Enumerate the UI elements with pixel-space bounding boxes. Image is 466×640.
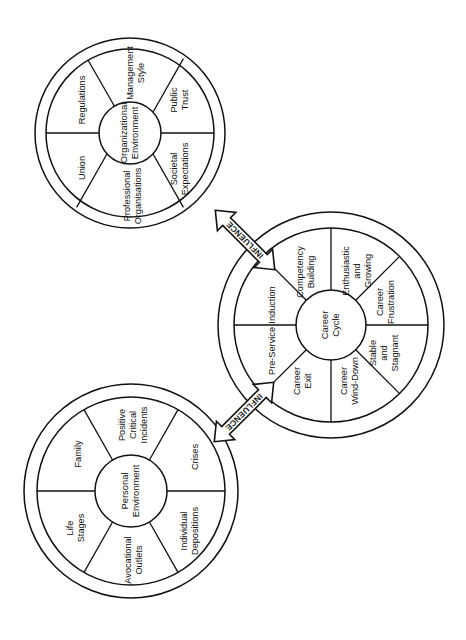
label-line: Exit [303,373,313,389]
divider-120 [88,60,115,106]
label-line: Life [65,521,75,536]
label-line: Frustration [386,280,396,324]
connector-influence-top: INFLUENCE [206,201,284,279]
segment-label-regulations: Regulations [77,75,87,124]
label-line: Incidents [139,406,149,443]
label-line: Career [339,367,349,395]
connector-label: INFLUENCE [225,219,266,260]
wheel-personal-environment: Personal Environment Crises Positive Cri… [24,384,238,598]
label-line: Trust [180,89,190,110]
segment-label-pre-service: Pre-Service [267,327,277,375]
divider-240 [84,521,113,572]
core-label-line-2: Environment [129,106,140,159]
label-line: Management [125,46,135,100]
wheel-organizational-environment: Organizational Environment Public Trust … [35,38,225,228]
core-label-line-1: Career [319,311,330,340]
label-line: Regulations [77,75,87,124]
divider-120 [84,410,113,461]
label-line: Induction [267,286,277,323]
connector-influence-bottom: INFLUENCE [205,373,283,451]
label-line: and [352,263,362,278]
core-label: Career Cycle [319,311,341,340]
segment-label-enthusiastic-and-growing: Enthusiastic and Growing [341,246,373,296]
segment-label-career-exit: Career Exit [292,367,313,395]
label-line: Competency [295,246,305,298]
label-line: Depositions [190,507,200,555]
label-line: Career [292,367,302,395]
segment-label-positive-critical-incidents: Positive Critical Incidents [117,406,149,443]
three-wheel-diagram: Organizational Environment Public Trust … [0,0,466,640]
label-line: Style [136,63,146,83]
label-line: Organisations [133,167,143,224]
label-line: Union [77,156,87,180]
core-label-line-2: Cycle [330,313,341,336]
label-line: Public [169,87,179,112]
segment-label-career-wind-down: Career Wind-Down [339,357,360,404]
label-line: Stagnant [390,334,400,371]
segment-label-crises: Crises [190,444,200,470]
label-line: Crises [190,444,200,470]
divider-60 [149,410,178,461]
core-label: Organizational Environment [118,103,140,163]
label-line: Individual [179,512,189,551]
label-line: Wind-Down [350,357,360,404]
label-line: Outlets [134,545,144,575]
core-label-line-1: Personal [119,472,130,509]
diagram-canvas: Organizational Environment Public Trust … [0,0,466,640]
label-line: Societal [169,153,179,186]
divider-300 [149,521,178,572]
core-label-line-2: Environment [130,464,141,517]
segment-label-competency-building: Competency Building [295,246,316,298]
segment-label-management-style: Management Style [125,46,146,100]
label-line: Enthusiastic [341,246,351,296]
core-label-line-1: Organizational [118,103,129,163]
segment-label-public-trust: Public Trust [169,87,190,112]
label-line: Professional [122,171,132,222]
label-line: Family [73,440,83,467]
segment-label-stable-and-stagnant: Stable and Stagnant [368,334,400,371]
label-line: Stages [76,513,86,542]
segment-label-individual-depositions: Individual Depositions [179,507,200,555]
segment-label-life-stages: Life Stages [65,513,86,542]
label-line: Expectations [180,142,190,195]
label-line: Growing [363,254,373,288]
segment-label-union: Union [77,156,87,180]
segment-label-career-frustration: Career Frustration [375,280,396,324]
label-line: Stable [368,340,378,366]
label-line: Pre-Service [267,327,277,375]
segment-label-professional-organisations: Professional Organisations [122,167,143,224]
label-line: Building [306,256,316,289]
label-line: Career [375,288,385,316]
label-line: Avocational [123,536,133,583]
label-line: and [379,345,389,360]
segment-label-induction: Induction [267,286,277,323]
segment-label-family: Family [73,440,83,467]
label-line: Positive [117,409,127,441]
label-line: Critical [128,411,138,439]
segment-label-avocational-outlets: Avocational Outlets [123,536,144,583]
